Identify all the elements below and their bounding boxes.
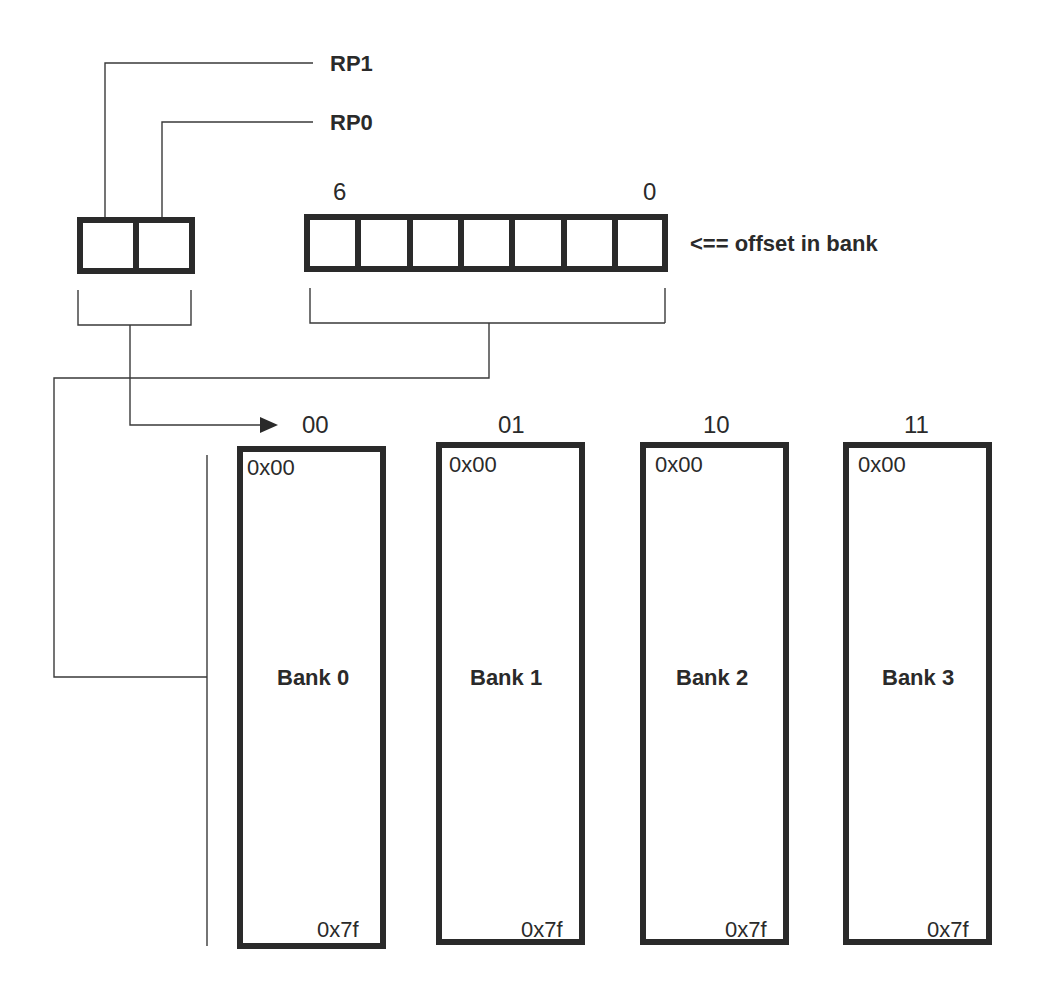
- bank-start-address: 0x00: [247, 455, 295, 480]
- bank-select-label: 00: [302, 411, 329, 438]
- rp-register: [80, 220, 192, 271]
- rp0-label: RP0: [330, 110, 373, 135]
- bank-start-address: 0x00: [449, 452, 497, 477]
- bank-select-label: 01: [498, 411, 525, 438]
- bank-name: Bank 3: [882, 665, 954, 690]
- bank-name: Bank 2: [676, 665, 748, 690]
- rp0-leader-line: [162, 122, 313, 222]
- bank-start-address: 0x00: [655, 452, 703, 477]
- bank-select-route-line: [130, 325, 262, 425]
- bank-name: Bank 0: [277, 665, 349, 690]
- bank-select-label: 10: [703, 411, 730, 438]
- offset-msb-label: 6: [333, 178, 346, 205]
- offset-bracket: [310, 288, 665, 323]
- rp1-leader-line: [105, 63, 313, 222]
- bank-diagram: RP1 RP0 6 0 <== offset in bank 00 0x00 B…: [0, 0, 1041, 1001]
- offset-register: [307, 217, 665, 269]
- bank-name: Bank 1: [470, 665, 542, 690]
- bank-end-address: 0x7f: [725, 917, 767, 942]
- offset-lsb-label: 0: [643, 178, 656, 205]
- bank-end-address: 0x7f: [521, 917, 563, 942]
- bank-select-label: 11: [904, 411, 929, 438]
- bank-2: 10 0x00 Bank 2 0x7f: [643, 411, 786, 942]
- offset-caption: <== offset in bank: [690, 231, 878, 256]
- bank-end-address: 0x7f: [317, 917, 359, 942]
- rp1-label: RP1: [330, 51, 373, 76]
- bank-0: 00 0x00 Bank 0 0x7f: [240, 411, 383, 946]
- bank-start-address: 0x00: [858, 452, 906, 477]
- bank-3: 11 0x00 Bank 3 0x7f: [846, 411, 989, 942]
- arrow-right-icon: [260, 417, 278, 433]
- rp-bracket: [78, 290, 191, 325]
- bank-1: 01 0x00 Bank 1 0x7f: [439, 411, 582, 942]
- bank-end-address: 0x7f: [927, 917, 969, 942]
